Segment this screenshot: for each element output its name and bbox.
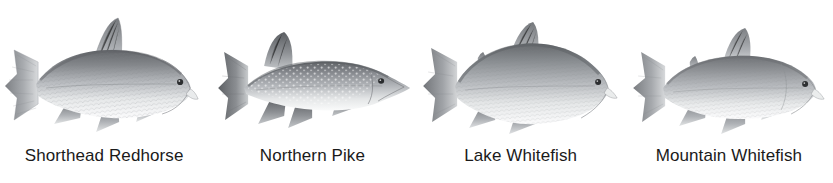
species-cell-mountain-whitefish: Mountain Whitefish	[625, 0, 833, 183]
fish-lake-whitefish-illustration	[417, 0, 625, 148]
species-label-northern-pike: Northern Pike	[260, 146, 365, 166]
species-label-mountain-whitefish: Mountain Whitefish	[656, 146, 802, 166]
species-label-lake-whitefish: Lake Whitefish	[464, 146, 577, 166]
eye	[802, 81, 808, 87]
species-row: Shorthead Redhorse	[0, 0, 833, 183]
eye	[177, 79, 183, 85]
caudal-fin	[5, 50, 38, 120]
fish-shorthead-redhorse-illustration	[0, 0, 208, 148]
caudal-fin	[218, 52, 248, 120]
eye	[595, 79, 601, 85]
species-cell-shorthead-redhorse: Shorthead Redhorse	[0, 0, 208, 183]
mouth	[811, 89, 824, 99]
fish-northern-pike-illustration	[208, 0, 416, 148]
eye	[378, 78, 384, 84]
caudal-fin	[423, 48, 457, 122]
species-label-shorthead-redhorse: Shorthead Redhorse	[25, 146, 184, 166]
species-cell-lake-whitefish: Lake Whitefish	[417, 0, 625, 183]
fish-species-figure: Shorthead Redhorse	[0, 0, 833, 183]
dorsal-fin	[264, 32, 292, 70]
mouth	[604, 88, 617, 98]
fish-mountain-whitefish-illustration	[625, 0, 833, 148]
species-cell-northern-pike: Northern Pike	[208, 0, 416, 183]
